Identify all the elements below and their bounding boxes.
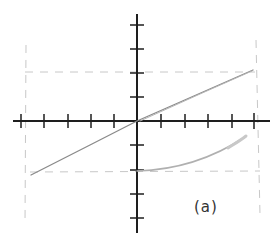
dashed-guides xyxy=(25,40,260,225)
graph-figure xyxy=(0,0,278,237)
figure-label: (a) xyxy=(194,198,218,216)
linear-graph xyxy=(31,70,253,175)
right-dashed-guide xyxy=(256,40,260,215)
curve-graph xyxy=(137,137,245,171)
